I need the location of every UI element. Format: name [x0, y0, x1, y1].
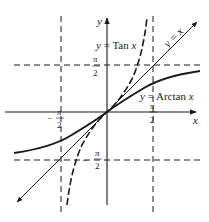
tan-curve-label: y = Tan x: [95, 39, 137, 51]
svg-text:π: π: [93, 54, 98, 64]
function-graph-diagram: y x y = Tan x y = Arctan x y = x π 2 − π…: [0, 0, 209, 222]
svg-text:−: −: [82, 155, 87, 165]
svg-text:−: −: [47, 113, 52, 123]
svg-text:2: 2: [95, 161, 100, 171]
y-axis-label: y: [96, 15, 102, 27]
svg-text:2: 2: [57, 120, 62, 130]
x-tick-pos-half-pi: π 2: [149, 101, 157, 125]
x-axis-label: x: [192, 114, 198, 126]
arctan-curve-label: y = Arctan x: [139, 90, 194, 102]
svg-text:π: π: [95, 148, 100, 158]
labels: y x y = Tan x y = Arctan x y = x π 2 − π…: [47, 15, 198, 171]
svg-text:π: π: [57, 107, 62, 117]
svg-text:2: 2: [150, 115, 155, 125]
svg-text:2: 2: [93, 68, 98, 78]
y-tick-pos-half-pi: π 2: [92, 54, 100, 78]
svg-text:π: π: [150, 101, 155, 111]
